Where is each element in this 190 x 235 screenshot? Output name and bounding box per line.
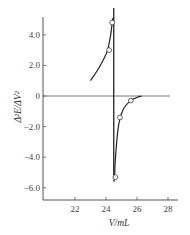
y-tick-label: 2.0 — [29, 60, 41, 70]
x-tick-label: 22 — [71, 204, 80, 214]
data-point — [118, 115, 123, 120]
y-tick-label: −2.0 — [24, 122, 41, 132]
x-tick-label: 26 — [133, 204, 143, 214]
labels: 4.02.00−2.0−4.0−6.022242628V/mLΔ²E/ΔV² — [13, 30, 173, 228]
data-point — [113, 175, 118, 180]
data-point — [110, 20, 115, 25]
curves — [91, 18, 142, 182]
y-tick-label: −6.0 — [24, 183, 41, 193]
y-axis-title: Δ²E/ΔV² — [13, 91, 23, 123]
y-tick-label: −4.0 — [24, 152, 41, 162]
lower-branch-curve — [114, 96, 142, 182]
y-tick-label: 4.0 — [29, 30, 41, 40]
data-point — [107, 48, 112, 53]
points — [107, 20, 134, 179]
x-axis-title: V/mL — [109, 218, 130, 228]
chart: 4.02.00−2.0−4.0−6.022242628V/mLΔ²E/ΔV² — [0, 0, 190, 235]
x-tick-label: 28 — [164, 204, 174, 214]
x-tick-label: 24 — [102, 204, 112, 214]
y-tick-label: 0 — [36, 91, 41, 101]
data-point — [128, 98, 133, 103]
